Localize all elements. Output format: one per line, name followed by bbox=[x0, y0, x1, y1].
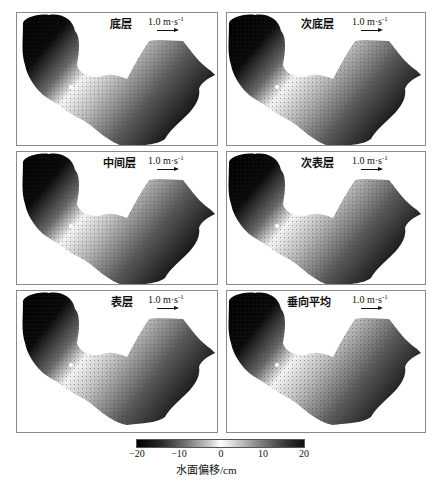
scale-arrow-icon bbox=[157, 169, 177, 170]
scale-arrow-icon bbox=[361, 169, 381, 170]
lake-map bbox=[17, 291, 217, 432]
panel-title: 次底层 bbox=[301, 15, 334, 31]
panel-title: 表层 bbox=[111, 293, 133, 309]
lake-map bbox=[17, 13, 217, 145]
scale-arrow-icon bbox=[361, 308, 381, 309]
panel-title: 中间层 bbox=[103, 154, 136, 170]
panel-surface-layer: 表层 1.0 m·s-1 bbox=[16, 290, 218, 433]
velocity-scale: 1.0 m·s-1 bbox=[352, 15, 388, 27]
scale-arrow-icon bbox=[157, 308, 177, 309]
panel-bottom-layer: 底层 1.0 m·s-1 bbox=[16, 12, 218, 146]
velocity-scale: 1.0 m·s-1 bbox=[352, 293, 388, 305]
velocity-scale: 1.0 m·s-1 bbox=[148, 154, 184, 166]
panel-vertical-average: 垂向平均 1.0 m·s-1 bbox=[226, 290, 426, 433]
colorbar-tick: 0 bbox=[219, 448, 224, 459]
colorbar-tick: 20 bbox=[299, 448, 309, 459]
lake-map bbox=[227, 13, 425, 145]
velocity-scale: 1.0 m·s-1 bbox=[148, 15, 184, 27]
colorbar-tick: −10 bbox=[171, 448, 187, 459]
panel-title: 底层 bbox=[110, 15, 132, 31]
lake-map bbox=[227, 291, 425, 432]
panel-sub-bottom-layer: 次底层 1.0 m·s-1 bbox=[226, 12, 426, 146]
colorbar bbox=[136, 439, 305, 448]
colorbar-label: 水面偏移/cm bbox=[176, 461, 237, 477]
velocity-scale: 1.0 m·s-1 bbox=[148, 293, 184, 305]
lake-map bbox=[227, 152, 425, 284]
panel-title: 次表层 bbox=[301, 154, 334, 170]
scale-arrow-icon bbox=[157, 30, 177, 31]
panel-title: 垂向平均 bbox=[287, 293, 331, 309]
colorbar-tick: −20 bbox=[129, 448, 145, 459]
velocity-scale: 1.0 m·s-1 bbox=[352, 154, 388, 166]
panel-middle-layer: 中间层 1.0 m·s-1 bbox=[16, 151, 218, 285]
colorbar-tick: 10 bbox=[258, 448, 268, 459]
scale-arrow-icon bbox=[361, 30, 381, 31]
panel-sub-surface-layer: 次表层 1.0 m·s-1 bbox=[226, 151, 426, 285]
lake-map bbox=[17, 152, 217, 284]
